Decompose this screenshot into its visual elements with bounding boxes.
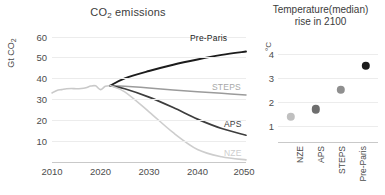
data-point-pre-paris [361,62,369,70]
series-label-aps: APS [224,119,242,129]
right-x-tick-nze: NZE [295,146,305,163]
x-tick-2030: 2030 [138,166,159,177]
gridline-10: 10 [52,141,246,142]
left-y-axis-label-main: Gt CO [6,42,16,68]
left-chart-title: CO2 emissions [0,6,256,18]
left-x-axis-line [52,162,246,163]
right-y-tick-4: 4 [269,48,274,59]
gridline-20: 20 [52,120,246,121]
y-tick-60: 60 [36,31,47,42]
right-chart-title-line1: Temperature(median) [256,4,385,16]
y-tick-50: 50 [36,52,47,63]
right-y-tick-2: 2 [269,97,274,108]
y-tick-10: 10 [36,136,47,147]
right-gridline-4: 4 [278,54,378,55]
left-y-axis-label: Gt CO2 [6,30,16,76]
right-plot-area: 4 3 2 1 [278,44,378,136]
right-x-tick-aps: APS [316,146,326,163]
left-chart-title-subscript: 2 [107,11,112,20]
right-x-axis-line [278,142,378,143]
series-label-steps: STEPS [212,82,241,92]
right-x-tick-steps: STEPS [337,146,347,174]
right-y-tick-3: 3 [269,72,274,83]
data-point-aps [311,105,319,113]
series-line-historical [52,86,110,93]
x-tick-2020: 2020 [90,166,111,177]
x-tick-2050: 2050 [233,166,254,177]
right-gridline-1: 1 [278,126,378,127]
y-tick-30: 30 [36,94,47,105]
x-tick-2040: 2040 [187,166,208,177]
right-chart-title: Temperature(median) rise in 2100 [256,4,385,28]
right-chart-title-line2: rise in 2100 [256,16,385,28]
data-point-steps [336,86,344,94]
gridline-30: 30 [52,99,246,100]
right-y-tick-1: 1 [269,121,274,132]
left-chart-title-main: CO [90,6,107,18]
left-y-axis-label-subscript: 2 [10,38,17,42]
y-tick-20: 20 [36,115,47,126]
gridline-40: 40 [52,78,246,79]
co2-emissions-chart-panel: CO2 emissions Gt CO2 60 50 40 30 20 10 [0,0,256,195]
figure-root: CO2 emissions Gt CO2 60 50 40 30 20 10 [0,0,385,195]
data-point-nze [286,112,294,120]
left-plot-area: 60 50 40 30 20 10 [52,26,246,162]
right-x-tick-pre-paris: Pre-Paris [358,146,368,181]
gridline-50: 50 [52,57,246,58]
series-label-pre-paris: Pre-Paris [190,33,227,43]
y-tick-40: 40 [36,73,47,84]
left-chart-title-rest: emissions [112,6,166,18]
x-tick-2010: 2010 [41,166,62,177]
series-label-nze: NZE [224,148,242,158]
right-gridline-2: 2 [278,102,378,103]
right-gridline-3: 3 [278,78,378,79]
